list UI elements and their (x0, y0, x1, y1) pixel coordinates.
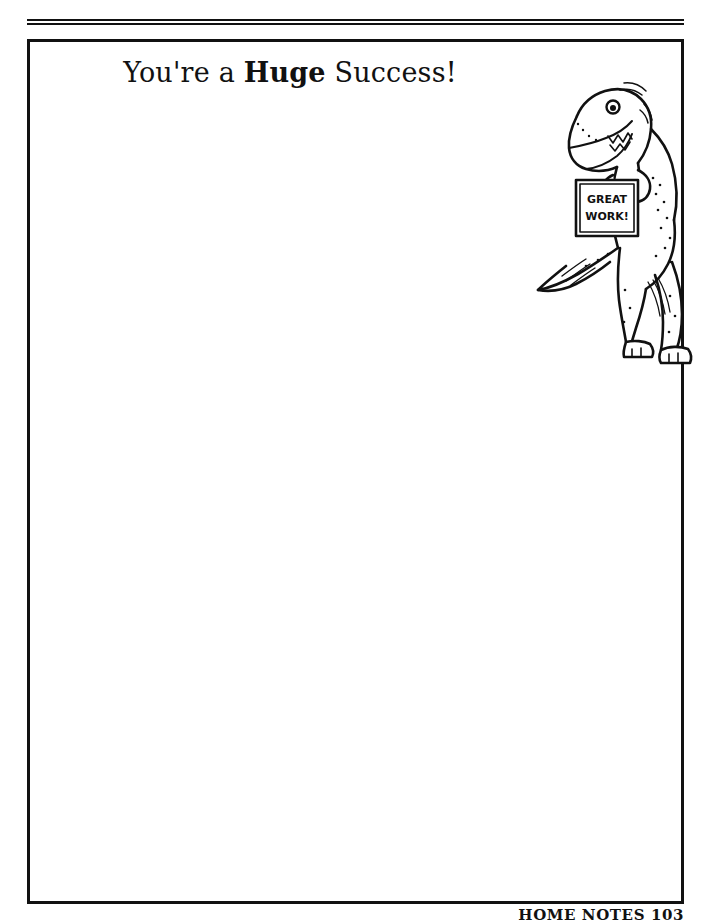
top-double-rule (27, 19, 684, 26)
top-rule-line-2 (27, 23, 684, 25)
page-title-emphasis: Huge (244, 57, 326, 88)
sign-line-2: WORK! (585, 210, 629, 223)
trex-icon: GREAT WORK! (520, 50, 700, 380)
footer-caption: HOME NOTES 103 (0, 906, 684, 924)
top-rule-line-1 (27, 19, 684, 21)
page-title: You're a Huge Success! (30, 58, 550, 88)
sign-line-1: GREAT (587, 193, 628, 206)
page-title-suffix: Success! (326, 57, 457, 88)
page-title-prefix: You're a (123, 57, 244, 88)
dinosaur-illustration: GREAT WORK! (520, 50, 700, 380)
note-frame: You're a Huge Success! (27, 39, 684, 904)
